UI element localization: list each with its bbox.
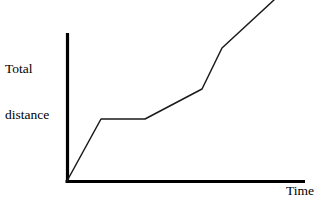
y-axis-label: Total distance [5, 31, 49, 152]
data-line-total-distance [67, 0, 274, 181]
x-axis-label: Time [286, 183, 314, 198]
axes-group [66, 33, 306, 182]
y-axis-label-line1: Total [5, 61, 49, 76]
y-axis-label-line2: distance [5, 107, 49, 122]
data-series-group [67, 0, 274, 181]
chart-figure: ty Total distance Time [0, 0, 317, 198]
